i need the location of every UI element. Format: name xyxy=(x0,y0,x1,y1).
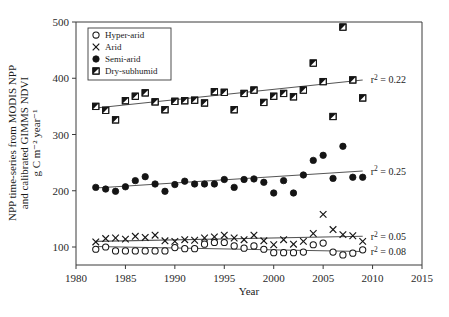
data-point xyxy=(132,177,138,183)
data-point xyxy=(251,176,257,182)
data-point xyxy=(93,103,99,109)
legend-marker-split-square xyxy=(93,68,99,74)
y-tick-label: 100 xyxy=(53,241,70,253)
data-point xyxy=(102,186,108,192)
data-point xyxy=(93,246,99,252)
data-point xyxy=(281,250,287,256)
x-tick-label: 1985 xyxy=(114,272,137,284)
x-tick-label: 2010 xyxy=(362,272,385,284)
data-point xyxy=(112,188,118,194)
data-point xyxy=(201,241,207,247)
data-point xyxy=(310,157,316,163)
data-point xyxy=(330,113,336,119)
data-point xyxy=(300,172,306,178)
legend-label: Hyper-arid xyxy=(105,30,145,40)
y-tick-label: 300 xyxy=(53,129,70,141)
data-point xyxy=(191,97,197,103)
data-point xyxy=(350,250,356,256)
data-point xyxy=(122,98,128,104)
data-point xyxy=(261,99,267,105)
data-point xyxy=(290,250,296,256)
data-point xyxy=(340,143,346,149)
data-point xyxy=(103,244,109,250)
data-point xyxy=(191,181,197,187)
data-point xyxy=(172,181,178,187)
data-point xyxy=(112,117,118,123)
data-point xyxy=(290,190,296,196)
data-point xyxy=(290,94,296,100)
y-tick-label: 400 xyxy=(53,72,70,84)
data-point xyxy=(152,181,158,187)
y-axis-title-line-2: and calibrated GIMMS NDVI xyxy=(18,77,30,210)
data-point xyxy=(280,177,286,183)
x-tick-label: 1995 xyxy=(213,272,236,284)
x-tick-label: 1980 xyxy=(65,272,88,284)
data-point xyxy=(340,252,346,258)
data-point xyxy=(172,244,178,250)
data-point xyxy=(93,184,99,190)
data-point xyxy=(221,239,227,245)
legend: Hyper-aridAridSemi-aridDry-subhumid xyxy=(88,28,171,80)
data-point xyxy=(152,248,158,254)
data-point xyxy=(241,245,247,251)
data-point xyxy=(310,60,316,66)
x-tick-label: 1990 xyxy=(164,272,187,284)
data-point xyxy=(152,99,158,105)
x-tick-label: 2005 xyxy=(312,272,335,284)
data-point xyxy=(251,87,257,93)
data-point xyxy=(320,152,326,158)
y-axis-title-line-3: g C m⁻² year⁻¹ xyxy=(30,109,42,176)
data-point xyxy=(300,87,306,93)
data-point xyxy=(192,246,198,252)
data-point xyxy=(300,249,306,255)
data-point xyxy=(211,89,217,95)
data-point xyxy=(231,243,237,249)
data-point xyxy=(359,95,365,101)
data-point xyxy=(271,190,277,196)
x-tick-label: 2015 xyxy=(411,272,434,284)
legend-label: Semi-arid xyxy=(105,54,141,64)
data-point xyxy=(251,243,257,249)
data-point xyxy=(162,248,168,254)
data-point xyxy=(350,77,356,83)
data-point xyxy=(142,90,148,96)
scatter-plot: 100200300400500 198019851990199520002005… xyxy=(0,0,449,317)
data-point xyxy=(211,239,217,245)
data-point xyxy=(241,176,247,182)
data-point xyxy=(132,248,138,254)
data-point xyxy=(211,181,217,187)
data-point xyxy=(320,78,326,84)
data-point xyxy=(310,242,316,248)
data-point xyxy=(359,174,365,180)
data-point xyxy=(122,184,128,190)
data-point xyxy=(241,90,247,96)
data-point xyxy=(201,181,207,187)
data-point xyxy=(330,249,336,255)
data-point xyxy=(162,188,168,194)
data-point xyxy=(231,107,237,113)
data-point xyxy=(112,248,118,254)
data-point xyxy=(182,178,188,184)
legend-label: Arid xyxy=(105,42,122,52)
data-point xyxy=(221,89,227,95)
data-point xyxy=(340,24,346,30)
data-point xyxy=(182,246,188,252)
x-axis-title: Year xyxy=(239,285,260,297)
data-point xyxy=(261,179,267,185)
legend-label: Dry-subhumid xyxy=(105,66,158,76)
y-tick-label: 500 xyxy=(53,16,70,28)
x-tick-label: 2000 xyxy=(263,272,286,284)
legend-marker-open-circle xyxy=(93,32,99,38)
data-point xyxy=(330,175,336,181)
data-point xyxy=(142,248,148,254)
data-point xyxy=(280,90,286,96)
data-point xyxy=(142,173,148,179)
data-point xyxy=(201,100,207,106)
y-axis-title-line-1: NPP time-series from MODIS NPP xyxy=(6,65,18,221)
data-point xyxy=(132,93,138,99)
data-point xyxy=(271,250,277,256)
data-point xyxy=(102,107,108,113)
data-point xyxy=(122,248,128,254)
data-point xyxy=(350,174,356,180)
data-point xyxy=(221,176,227,182)
